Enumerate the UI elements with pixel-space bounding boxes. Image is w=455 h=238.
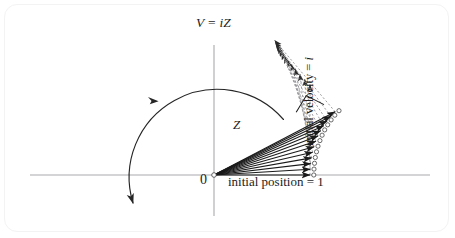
label-initial-position-value: 1 [317, 174, 324, 189]
label-initial-position-text: initial position = [228, 174, 317, 189]
axes [30, 45, 430, 216]
vector-tip [316, 144, 320, 148]
vector-tip [312, 167, 316, 171]
label-origin: 0 [200, 173, 207, 187]
label-v-rhs: iZ [219, 15, 231, 30]
label-initial-velocity: initial velocity = i [303, 57, 316, 146]
vector-tip [313, 155, 317, 159]
label-v-equals-iz: V = iZ [196, 16, 231, 30]
label-v-eq: = [204, 15, 219, 30]
figure-root: V = iZ Z 0 initial position = 1 initial … [0, 0, 455, 238]
label-initial-velocity-value: i [302, 57, 316, 60]
vector-tip [329, 118, 333, 122]
vector-tip [337, 109, 341, 113]
vector-tip [318, 139, 322, 143]
vector-tip [326, 123, 330, 127]
label-initial-position: initial position = 1 [228, 175, 324, 188]
rotation-arc-mid-arrowhead [148, 97, 159, 104]
vector-tip [333, 113, 337, 117]
label-initial-velocity-text: initial velocity = [302, 60, 316, 146]
vector-tip [314, 150, 318, 154]
vector-tip [320, 133, 324, 137]
label-z: Z [233, 118, 240, 131]
vector-tip [323, 128, 327, 132]
vector-tip [312, 161, 316, 165]
origin-marker [212, 173, 217, 178]
diagram-canvas [0, 0, 455, 238]
